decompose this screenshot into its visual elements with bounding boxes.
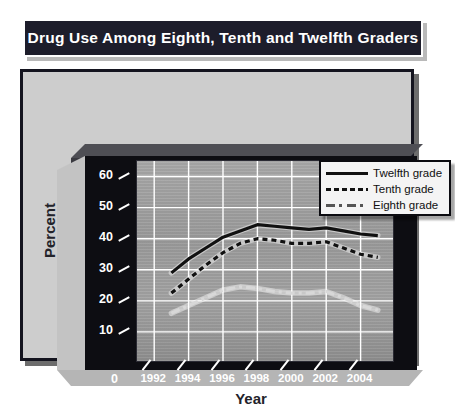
x-axis-label: Year: [85, 390, 417, 407]
x-tick-label: 1996: [205, 372, 239, 384]
legend-swatch-icon: [326, 167, 368, 179]
y-axis-label: Percent: [41, 151, 58, 311]
x-tick-label: 2004: [343, 372, 377, 384]
x-tick-label: 1992: [136, 372, 170, 384]
y-axis-wall: [57, 156, 85, 370]
legend-label: Twelfth grade: [373, 167, 442, 179]
chart-panel: Percent 102030405060 0 19921994199619982…: [20, 69, 414, 361]
legend-swatch-icon: [326, 199, 368, 211]
chart-title-bar: Drug Use Among Eighth, Tenth and Twelfth…: [23, 19, 423, 57]
y-tick-label: 20: [87, 292, 113, 306]
x-tick-label: 1994: [171, 372, 205, 384]
series-halo: [171, 239, 377, 293]
chart-legend: Twelfth gradeTenth gradeEighth grade: [319, 160, 451, 216]
y-tick-label: 10: [87, 323, 113, 337]
series-line: [171, 287, 377, 313]
legend-swatch-icon: [326, 183, 368, 195]
y-tick-label: 50: [87, 199, 113, 213]
legend-item: Eighth grade: [326, 197, 444, 213]
y-tick-label: 30: [87, 261, 113, 275]
legend-label: Tenth grade: [373, 183, 434, 195]
y-tick-label: 60: [87, 168, 113, 182]
legend-item: Twelfth grade: [326, 165, 444, 181]
page-title: Drug Use Among Eighth, Tenth and Twelfth…: [28, 29, 419, 47]
legend-item: Tenth grade: [326, 181, 444, 197]
x-tick-label: 1998: [239, 372, 273, 384]
legend-label: Eighth grade: [373, 199, 438, 211]
x-tick-label: 2002: [308, 372, 342, 384]
y-tick-label: 40: [87, 230, 113, 244]
y-axis-zero: 0: [111, 372, 118, 386]
x-tick-label: 2000: [274, 372, 308, 384]
